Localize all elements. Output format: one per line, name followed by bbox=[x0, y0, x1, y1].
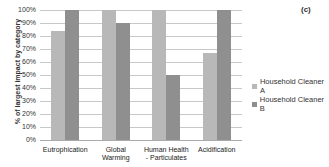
panel-label: (c) bbox=[301, 5, 311, 14]
legend-label: Household Cleaner B bbox=[260, 95, 329, 113]
y-tick-label: 10% bbox=[2, 123, 36, 130]
y-tick-label: 20% bbox=[2, 110, 36, 117]
legend-swatch bbox=[252, 84, 257, 89]
legend-label: Household Cleaner A bbox=[260, 77, 329, 95]
y-tick-label: 30% bbox=[2, 97, 36, 104]
legend-item: Household Cleaner A bbox=[252, 77, 329, 95]
plot-area bbox=[40, 10, 242, 140]
bar-cleaner-a bbox=[152, 10, 166, 140]
bar-cleaner-a bbox=[51, 31, 65, 140]
legend-swatch bbox=[252, 102, 257, 107]
bar-cleaner-a bbox=[102, 10, 116, 140]
y-tick-label: 80% bbox=[2, 32, 36, 39]
x-category-label: Acidification bbox=[187, 146, 247, 154]
legend-item: Household Cleaner B bbox=[252, 95, 329, 113]
y-tick-label: 60% bbox=[2, 58, 36, 65]
bar-cleaner-a bbox=[203, 53, 217, 140]
bar-cleaner-b bbox=[217, 10, 231, 140]
y-tick-label: 50% bbox=[2, 71, 36, 78]
y-tick-label: 90% bbox=[2, 19, 36, 26]
y-tick-label: 40% bbox=[2, 84, 36, 91]
legend: Household Cleaner AHousehold Cleaner B bbox=[252, 77, 329, 113]
y-tick-label: 100% bbox=[2, 6, 36, 13]
x-axis-line bbox=[40, 140, 242, 141]
y-tick-label: 70% bbox=[2, 45, 36, 52]
bar-cleaner-b bbox=[166, 75, 180, 140]
bar-cleaner-b bbox=[116, 23, 130, 140]
bar-cleaner-b bbox=[65, 10, 79, 140]
y-tick-label: 0% bbox=[2, 136, 36, 143]
